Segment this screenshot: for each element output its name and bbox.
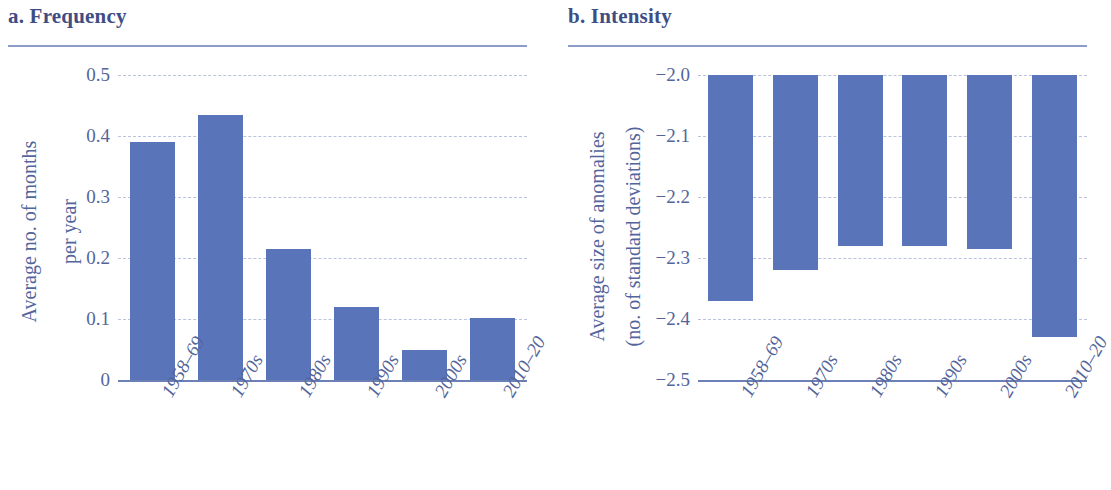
- chart-panel-intensity: b. Intensity Average size of anomalies (…: [560, 0, 1100, 490]
- y-axis-tick-label: −2.4: [656, 308, 690, 330]
- bar: [967, 75, 1012, 249]
- bar: [1032, 75, 1077, 337]
- y-axis-tick-label: 0.1: [86, 308, 110, 330]
- y-axis-tick-label: 0.4: [86, 125, 110, 147]
- panel-a-title-rule: [8, 45, 527, 47]
- panel-b-ylabel-line1: Average size of anomalies: [586, 107, 609, 367]
- panel-b-plot-area: [698, 75, 1087, 380]
- panel-a-title: a. Frequency: [8, 4, 127, 29]
- panel-a-ylabel-line1: Average no. of months: [18, 107, 41, 357]
- bar: [130, 142, 175, 380]
- panel-a-ytick-labels: 00.10.20.30.40.5: [60, 75, 110, 380]
- y-axis-tick-label: 0.5: [86, 64, 110, 86]
- bar: [773, 75, 818, 270]
- bar: [838, 75, 883, 246]
- panel-b-title-rule: [568, 45, 1087, 47]
- bar: [708, 75, 753, 301]
- bar: [266, 249, 311, 380]
- bar: [902, 75, 947, 246]
- panel-a-category-labels: 1958–691970s1980s1990s2000s2010–20: [0, 384, 550, 490]
- chart-panel-frequency: a. Frequency Average no. of months per y…: [0, 0, 550, 490]
- y-axis-tick-label: −2.3: [656, 247, 690, 269]
- y-axis-tick-label: −2.1: [656, 125, 690, 147]
- panel-b-category-labels: 1958–691970s1980s1990s2000s2010–20: [560, 384, 1100, 490]
- panel-b-title: b. Intensity: [568, 4, 672, 29]
- bar: [334, 307, 379, 380]
- panel-a-plot-area: [118, 75, 527, 380]
- y-axis-tick-label: 0.2: [86, 247, 110, 269]
- panel-b-ytick-labels: −2.5−2.4−2.3−2.2−2.1−2.0: [628, 75, 690, 380]
- panel-a-bars: [118, 75, 527, 380]
- y-axis-tick-label: 0.3: [86, 186, 110, 208]
- y-axis-tick-label: −2.2: [656, 186, 690, 208]
- panel-b-bars: [698, 75, 1087, 380]
- y-axis-tick-label: −2.0: [656, 64, 690, 86]
